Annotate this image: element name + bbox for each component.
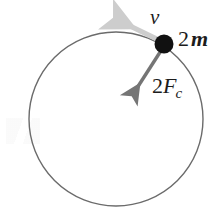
force-label-number: 2	[152, 73, 163, 98]
velocity-label: v	[150, 7, 159, 28]
physics-diagram-figure: v 2m 2Fc	[0, 0, 219, 212]
centripetal-force-label: 2Fc	[152, 75, 182, 101]
circular-path-outline	[29, 32, 203, 206]
mass-label-symbol: m	[191, 26, 208, 51]
mass-label-number: 2	[178, 26, 189, 51]
mass-label: 2m	[178, 28, 208, 50]
force-label-subscript: c	[175, 85, 182, 101]
mass-point-dot	[155, 35, 174, 54]
